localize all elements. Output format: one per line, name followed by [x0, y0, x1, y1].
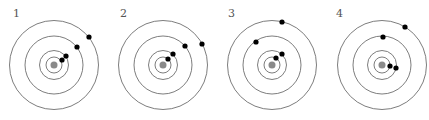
central-star-icon — [379, 62, 386, 69]
panel-4: 4 — [336, 7, 427, 110]
panel-3: 3 — [228, 7, 317, 110]
planet-dot-2 — [393, 65, 398, 70]
planet-dot-1 — [165, 56, 170, 61]
planet-dot-4 — [199, 41, 204, 46]
panel-label: 2 — [120, 7, 127, 20]
planet-dot-3 — [380, 34, 385, 39]
central-star-icon — [269, 62, 276, 69]
central-star-icon — [160, 62, 167, 69]
planet-dot-4 — [402, 24, 407, 29]
planet-dot-1 — [59, 57, 64, 62]
panel-label: 4 — [336, 7, 343, 20]
central-star-icon — [51, 62, 58, 69]
planet-dot-1 — [273, 55, 278, 60]
planet-dot-3 — [253, 39, 258, 44]
planet-dot-3 — [74, 44, 79, 49]
planet-dot-2 — [63, 53, 68, 58]
panel-2: 2 — [119, 7, 208, 110]
panel-label: 3 — [228, 7, 235, 20]
orbit-diagram-canvas: 1 2 3 4 — [0, 0, 429, 120]
planet-dot-1 — [387, 63, 392, 68]
panel-label: 1 — [13, 7, 20, 20]
planet-dot-2 — [279, 51, 284, 56]
planet-dot-2 — [170, 51, 175, 56]
planet-dot-3 — [182, 43, 187, 48]
panel-1: 1 — [10, 7, 99, 110]
planet-dot-4 — [86, 34, 91, 39]
planet-dot-4 — [279, 19, 284, 24]
